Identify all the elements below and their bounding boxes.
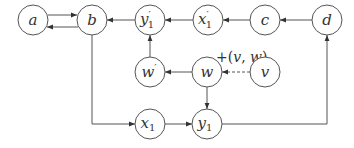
node-w-prime: w′ [135, 57, 165, 87]
node-w: w [192, 57, 222, 87]
svg-text:d: d [322, 11, 332, 29]
node-y1-prime: y′1 [135, 5, 165, 35]
node-v: v [250, 57, 280, 87]
edge-b-to-x1 [92, 35, 135, 124]
node-x1-prime: x′1 [193, 5, 223, 35]
node-c: c [250, 5, 280, 35]
svg-text:c: c [261, 11, 270, 29]
node-y1: y1 [192, 109, 222, 139]
svg-text:b: b [87, 11, 97, 29]
node-d: d [312, 5, 342, 35]
svg-text:v: v [261, 63, 270, 81]
node-b: b [77, 5, 107, 35]
svg-text:w: w [201, 63, 214, 81]
node-x1: x1 [135, 109, 165, 139]
graph-diagram: +(v, w) a b y′1 x′1 c d w′ w v x1 [0, 0, 354, 148]
svg-text:a: a [29, 11, 38, 29]
node-a: a [18, 5, 48, 35]
